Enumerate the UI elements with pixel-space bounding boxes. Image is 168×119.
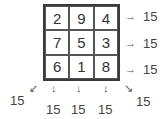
arrow-right-icon: → [125, 11, 136, 22]
cell-r2c1: 7 [45, 30, 69, 54]
row-sum-1: 15 [143, 10, 157, 23]
arrow-down-icon: ↓ [51, 83, 57, 94]
arrow-right-icon: → [125, 64, 136, 75]
arrow-down-icon: ↓ [76, 83, 82, 94]
row-sum-3: 15 [143, 63, 157, 76]
cell-r1c2: 9 [69, 6, 93, 30]
main-diagonal-sum: 15 [136, 95, 150, 108]
cell-r1c3: 4 [94, 6, 118, 30]
arrow-down-right-icon: ↘ [124, 83, 133, 94]
cell-r1c1: 2 [45, 6, 69, 30]
cell-r2c3: 3 [94, 30, 118, 54]
anti-diagonal-sum: 15 [10, 94, 24, 107]
row-sum-2: 15 [143, 37, 157, 50]
cell-r3c2: 1 [69, 55, 93, 79]
magic-square-grid: 2 9 4 7 5 3 6 1 8 [43, 4, 120, 81]
column-sum-1: 15 [46, 103, 60, 116]
cell-r2c2: 5 [69, 30, 93, 54]
arrow-down-icon: ↓ [103, 83, 109, 94]
arrow-right-icon: → [125, 38, 136, 49]
column-sum-3: 15 [98, 103, 112, 116]
arrow-down-left-icon: ↙ [29, 83, 38, 94]
column-sum-2: 15 [71, 103, 85, 116]
cell-r3c1: 6 [45, 55, 69, 79]
cell-r3c3: 8 [94, 55, 118, 79]
